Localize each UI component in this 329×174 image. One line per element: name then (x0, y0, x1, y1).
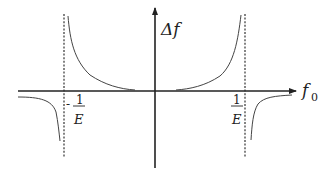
right-asymptote-label: 1 E (231, 93, 243, 127)
left-asymptote-label: - 1 E (66, 93, 85, 127)
fraction-denominator: E (231, 112, 242, 127)
x-axis-label-subscript: 0 (311, 91, 318, 104)
minus-sign: - (66, 97, 70, 111)
x-axis-label: f (300, 80, 311, 100)
curve-left-inner (68, 16, 135, 90)
curve-right-outer (251, 95, 292, 140)
delta-f-vs-f0-diagram: Δf f 0 - 1 E 1 E (0, 0, 329, 174)
curve-right-inner (176, 15, 241, 90)
fraction-denominator: E (73, 112, 84, 127)
fraction-numerator: 1 (76, 93, 84, 107)
y-axis-label: Δf (160, 19, 182, 39)
fraction-numerator: 1 (233, 93, 241, 107)
curve-left-outer (18, 97, 60, 141)
